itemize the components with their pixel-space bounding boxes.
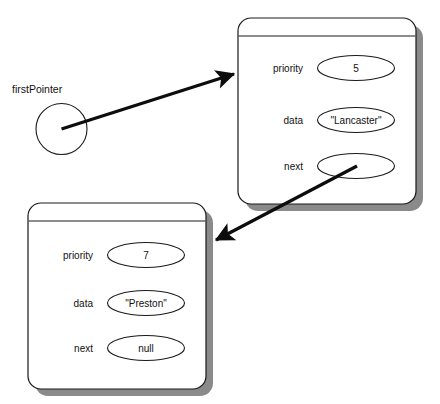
first-pointer[interactable]: firstPointer	[12, 83, 87, 155]
node-1-slot-priority-label: priority	[273, 63, 303, 74]
node-2[interactable]: priority 7 data "Preston" next null	[28, 203, 213, 396]
node-2-slot-next-label: next	[74, 343, 93, 354]
first-pointer-label: firstPointer	[12, 83, 63, 95]
node-1-slot-priority-value: 5	[353, 63, 359, 74]
first-pointer-circle[interactable]	[36, 104, 87, 155]
node-1[interactable]: priority 5 data "Lancaster" next	[238, 18, 423, 211]
node-2-slot-next-value: null	[138, 343, 154, 354]
node-1-slot-next-label: next	[284, 161, 303, 172]
node-1-slot-data-label: data	[284, 115, 304, 126]
node-1-slot-data-value: "Lancaster"	[330, 115, 381, 126]
node-2-slot-priority-value: 7	[143, 250, 149, 261]
node-2-slot-data-label: data	[74, 298, 94, 309]
linked-list-diagram: priority 5 data "Lancaster" next	[0, 0, 440, 404]
diagram-canvas: priority 5 data "Lancaster" next	[0, 0, 440, 404]
arrow-first-pointer-to-node-1	[62, 74, 235, 129]
node-2-slot-priority-label: priority	[63, 250, 93, 261]
node-2-slot-data-value: "Preston"	[125, 298, 167, 309]
node-1-frame	[238, 18, 416, 204]
